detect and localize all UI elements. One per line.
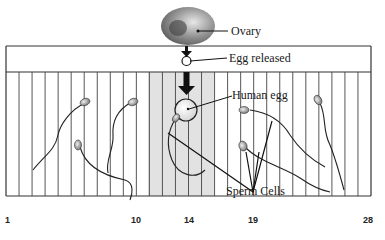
label-sperm-cells: Sperm Cells xyxy=(226,184,285,199)
ovary-icon xyxy=(161,7,228,45)
tick-day-1: 1 xyxy=(5,215,10,225)
diagram-canvas xyxy=(0,0,385,240)
label-egg-released: Egg released xyxy=(229,51,291,66)
tick-day-10: 10 xyxy=(131,215,141,225)
menstrual-cycle-diagram: Ovary Egg released Human egg Sperm Cells… xyxy=(0,0,385,240)
label-ovary: Ovary xyxy=(231,24,261,39)
tick-day-28: 28 xyxy=(363,215,373,225)
tick-day-19: 19 xyxy=(248,215,258,225)
tick-day-14: 14 xyxy=(184,215,194,225)
fertile-shade xyxy=(148,72,214,196)
released-egg-icon xyxy=(182,57,191,66)
label-human-egg: Human egg xyxy=(232,88,288,103)
arrow-down-icon xyxy=(181,46,192,57)
